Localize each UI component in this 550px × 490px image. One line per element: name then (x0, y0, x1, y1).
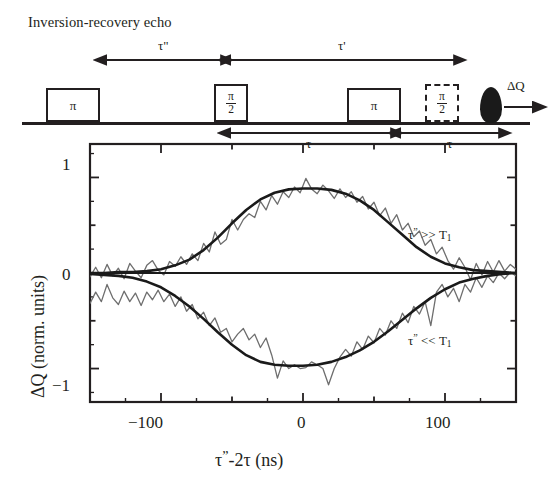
interval-label-tau-prime: τ' (338, 38, 346, 54)
pulse-sequence-diagram: τ" τ' π π 2 π π 2 ΔQ (0, 36, 550, 136)
pulse-pi-over-2-2: π 2 (425, 84, 459, 122)
pulse-pi-2-label: π (371, 99, 378, 112)
annot-fast-recovery: τ” << T1 (408, 332, 452, 349)
figure-root: Inversion-recovery echo τ" τ' π (0, 0, 550, 490)
plot-canvas (0, 130, 550, 420)
pulse-pi-2: π (347, 88, 401, 122)
echo-signal (480, 87, 502, 123)
pulse-pi-1-label: π (70, 99, 77, 112)
figure-title: Inversion-recovery echo (28, 14, 172, 31)
annot-slow-recovery: τ” >> T1 (408, 226, 452, 243)
series-fit-positive (90, 188, 516, 273)
pulse-pi-over-2-1: π 2 (214, 84, 248, 122)
readout-arrow-icon (504, 98, 544, 116)
pulse-pi-over-2-2-label: π 2 (437, 91, 447, 115)
delta-q-plot: 1 0 −1 −100 0 100 τ”-2τ (ns) ΔQ (norm. u… (0, 130, 550, 490)
readout-label-delta-q: ΔQ (507, 78, 525, 94)
xtick-label-100: 100 (425, 413, 451, 433)
series-data-negative (90, 272, 516, 385)
xtick-label-0: 0 (297, 413, 306, 433)
ytick-label-0: 0 (62, 265, 71, 285)
y-axis-title: ΔQ (norm. units) (28, 275, 49, 398)
pulse-pi-over-2-1-label: π 2 (226, 91, 236, 115)
ytick-label-1: 1 (62, 155, 71, 175)
series-fit-negative (90, 273, 516, 366)
ytick-label-neg1: −1 (52, 376, 70, 396)
xtick-label-neg100: −100 (128, 413, 163, 433)
pulse-pi-1: π (46, 88, 100, 122)
interval-label-tau-double-prime: τ" (158, 38, 169, 54)
x-axis-title: τ”-2τ (ns) (215, 448, 283, 471)
